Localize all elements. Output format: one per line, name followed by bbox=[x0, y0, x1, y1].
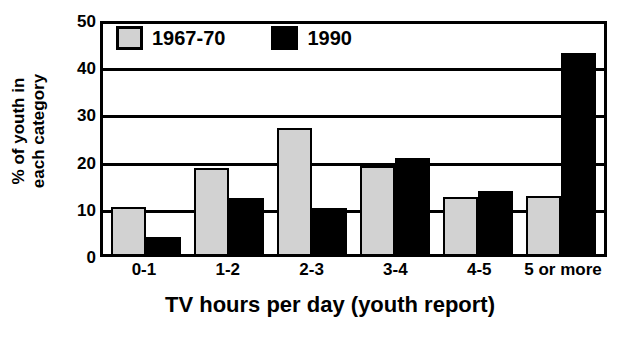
x-tick-4-5: 4-5 bbox=[437, 261, 521, 285]
x-axis-tick-labels: 0-11-22-33-44-55 or more bbox=[100, 261, 607, 285]
bar-1967-70-5-or-more bbox=[526, 196, 561, 254]
y-tick-10: 10 bbox=[56, 202, 96, 219]
legend-item-1990: 1990 bbox=[271, 26, 352, 50]
y-axis-title: % of youth in each category bbox=[0, 0, 58, 262]
legend-item-1967-70: 1967-70 bbox=[116, 26, 225, 50]
y-tick-20: 20 bbox=[56, 155, 96, 172]
bar-1990-0-1 bbox=[146, 237, 181, 254]
x-tick-2-3: 2-3 bbox=[270, 261, 354, 285]
y-tick-40: 40 bbox=[56, 60, 96, 77]
y-tick-50: 50 bbox=[56, 13, 96, 30]
plot-area bbox=[100, 21, 607, 257]
y-tick-0: 0 bbox=[56, 249, 96, 266]
bar-1990-3-4 bbox=[395, 158, 430, 254]
y-axis-title-line2: each category bbox=[29, 74, 49, 188]
x-tick-0-1: 0-1 bbox=[102, 261, 186, 285]
legend-label-1990: 1990 bbox=[307, 28, 352, 48]
bar-chart-figure: % of youth in each category 50 40 30 20 … bbox=[0, 0, 626, 337]
legend-swatch-icon-1990 bbox=[271, 26, 298, 50]
bar-group-2-3 bbox=[271, 24, 354, 254]
bar-group-4-5 bbox=[436, 24, 519, 254]
bar-1990-2-3 bbox=[312, 208, 347, 254]
bar-group-5-or-more bbox=[519, 24, 602, 254]
y-tick-30: 30 bbox=[56, 107, 96, 124]
y-axis-title-line1: % of youth in bbox=[9, 78, 28, 185]
legend-label-1967-70: 1967-70 bbox=[152, 28, 225, 48]
bar-1967-70-4-5 bbox=[443, 197, 478, 254]
x-axis-title: TV hours per day (youth report) bbox=[60, 294, 600, 316]
bar-1967-70-2-3 bbox=[277, 128, 312, 254]
x-tick-1-2: 1-2 bbox=[186, 261, 270, 285]
bar-1967-70-1-2 bbox=[194, 168, 229, 254]
bar-1967-70-0-1 bbox=[111, 207, 146, 255]
x-tick-5-or-more: 5 or more bbox=[521, 261, 605, 285]
bar-1967-70-3-4 bbox=[360, 166, 395, 255]
bar-group-1-2 bbox=[188, 24, 271, 254]
y-axis-tick-labels: 50 40 30 20 10 0 bbox=[52, 0, 96, 337]
bar-groups bbox=[103, 24, 604, 254]
bar-group-3-4 bbox=[353, 24, 436, 254]
legend-swatch-icon-1967-70 bbox=[116, 26, 143, 50]
bar-1990-4-5 bbox=[478, 191, 513, 254]
bar-1990-5-or-more bbox=[561, 53, 596, 254]
x-tick-3-4: 3-4 bbox=[353, 261, 437, 285]
bar-1990-1-2 bbox=[229, 198, 264, 254]
legend: 1967-70 1990 bbox=[116, 26, 352, 50]
bar-group-0-1 bbox=[105, 24, 188, 254]
